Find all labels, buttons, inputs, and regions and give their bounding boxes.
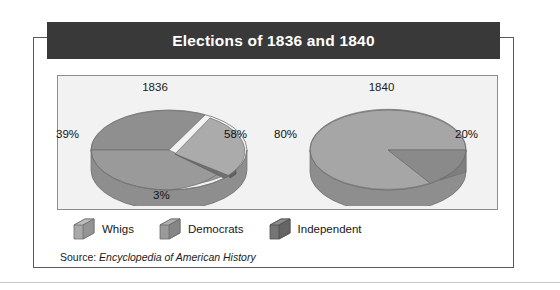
- pie-1840-label-whigs: 80%: [274, 128, 297, 140]
- legend-swatch-icon: [268, 218, 292, 240]
- pie-1840-year-label: 1840: [272, 81, 491, 93]
- legend-item-whigs: Whigs: [72, 218, 134, 240]
- legend-label-democrats: Democrats: [188, 223, 244, 235]
- legend-label-whigs: Whigs: [102, 223, 134, 235]
- legend-swatch-icon: [72, 218, 96, 240]
- pie-1836-label-whigs: 58%: [224, 128, 247, 140]
- pie-1840-label-democrats: 20%: [455, 128, 478, 140]
- pie-chart-1836: 1836 39% 58% 3%: [58, 76, 280, 209]
- pie-1836-label-independent: 3%: [153, 189, 170, 201]
- legend-label-independent: Independent: [298, 223, 362, 235]
- title-banner: Elections of 1836 and 1840: [47, 22, 500, 59]
- plot-panel: 1836 39% 58% 3% 1840: [57, 75, 498, 210]
- pie-1836-year-label: 1836: [44, 81, 266, 93]
- source-note: Source: Encyclopedia of American History: [60, 251, 256, 263]
- source-prefix: Source:: [60, 251, 96, 263]
- page-title: Elections of 1836 and 1840: [172, 32, 374, 50]
- source-title: Encyclopedia of American History: [99, 251, 256, 263]
- pie-1840-graphic: [280, 94, 499, 206]
- pie-1836-label-democrats: 39%: [56, 128, 79, 140]
- legend-item-democrats: Democrats: [158, 218, 244, 240]
- chart-legend: Whigs Democrats Independent: [72, 218, 386, 240]
- bottom-divider: [0, 282, 560, 283]
- pie-chart-1840: 1840 80% 20%: [280, 76, 499, 209]
- legend-item-independent: Independent: [268, 218, 362, 240]
- legend-swatch-icon: [158, 218, 182, 240]
